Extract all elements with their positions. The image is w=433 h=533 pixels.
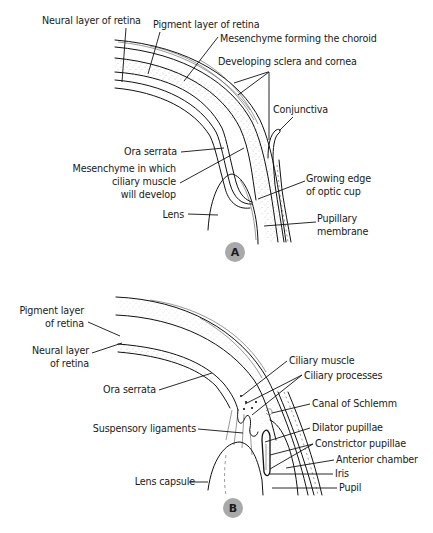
label-pigment-layer-of-retina-b: Pigment layerof retina: [19, 305, 84, 329]
label-line: will develop: [121, 189, 176, 200]
label-line: Pigment layer of retina: [153, 19, 259, 30]
panel-b-badge: B: [223, 498, 243, 518]
label-line: Anterior chamber: [336, 454, 418, 465]
label-line: Ora serrata: [124, 146, 177, 157]
label-line: Suspensory ligaments: [93, 423, 196, 434]
leader-neural-layer-of-retina-b: [92, 343, 122, 353]
label-line: Developing sclera and cornea: [218, 56, 357, 67]
badge-label-a: A: [231, 246, 240, 259]
label-pigment-layer-of-retina: Pigment layer of retina: [153, 19, 259, 30]
label-ciliary-muscle: Ciliary muscle: [289, 355, 355, 366]
label-line: Dilator pupillae: [312, 422, 383, 433]
label-line: Lens capsule: [135, 476, 196, 487]
label-neural-layer-of-retina-b: Neural layerof retina: [32, 345, 89, 369]
label-mesenchyme-forming-choroid: Mesenchyme forming the choroid: [220, 33, 377, 44]
leader-pigment-layer-of-retina-b: [88, 322, 120, 336]
label-canal-of-schlemm: Canal of Schlemm: [312, 398, 397, 409]
diagram-canvas: Neural layer of retinaPigment layer of r…: [0, 0, 433, 533]
label-line: Canal of Schlemm: [312, 398, 397, 409]
label-line: Ora serrata: [103, 384, 156, 395]
leader-lens: [188, 214, 218, 215]
lens-capsule-inner-b: [225, 455, 227, 495]
label-pupillary-membrane: Pupillarymembrane: [317, 213, 369, 237]
label-ora-serrata-a: Ora serrata: [124, 146, 177, 157]
label-growing-edge-optic-cup: Growing edgeof optic cup: [306, 173, 371, 197]
label-pupil: Pupil: [339, 482, 361, 493]
label-line: of retina: [50, 358, 89, 369]
panel-a-drawing: [115, 40, 291, 244]
label-line: Mesenchyme forming the choroid: [220, 33, 377, 44]
label-line: Pigment layer: [19, 305, 84, 316]
label-lens-capsule: Lens capsule: [135, 476, 196, 487]
label-line: Ciliary processes: [304, 370, 383, 381]
leader-conjunctiva: [279, 117, 293, 131]
label-line: Pupil: [339, 482, 361, 493]
label-line: Constrictor pupillae: [315, 438, 406, 449]
label-line: membrane: [317, 226, 369, 237]
eye-development-figure: Neural layer of retinaPigment layer of r…: [0, 0, 433, 533]
label-constrictor-pupillae: Constrictor pupillae: [315, 438, 406, 449]
labels: Neural layer of retinaPigment layer of r…: [19, 15, 418, 493]
label-line: Mesenchyme in which: [73, 163, 176, 174]
sclera-inner-line-b: [116, 315, 276, 440]
label-mesenchyme-ciliary-muscle: Mesenchyme in whichciliary musclewill de…: [73, 163, 177, 200]
lens-outline-b: [208, 442, 263, 495]
label-line: Growing edge: [306, 173, 371, 184]
label-lens: Lens: [162, 209, 184, 220]
label-line: of retina: [45, 318, 84, 329]
label-line: Iris: [335, 468, 349, 479]
panel-a-badge: A: [225, 242, 245, 262]
label-line: of optic cup: [306, 186, 361, 197]
label-line: Neural layer of retina: [42, 15, 141, 26]
label-dilator-pupillae: Dilator pupillae: [312, 422, 383, 433]
label-suspensory-ligaments: Suspensory ligaments: [93, 423, 196, 434]
label-iris: Iris: [335, 468, 349, 479]
lens-outline-a: [208, 174, 258, 244]
retina-band-b: [118, 344, 220, 388]
leader-ora-serrata-b: [159, 373, 212, 390]
label-line: Neural layer: [32, 345, 89, 356]
label-line: Ciliary muscle: [289, 355, 355, 366]
label-ciliary-processes: Ciliary processes: [304, 370, 383, 381]
label-line: Lens: [162, 209, 184, 220]
label-conjunctiva: Conjunctiva: [273, 104, 328, 115]
panel-b-drawing: [116, 297, 322, 495]
label-ora-serrata-b: Ora serrata: [103, 384, 156, 395]
badge-label-b: B: [229, 502, 237, 515]
leader-ora-serrata-a: [181, 148, 224, 152]
label-line: Conjunctiva: [273, 104, 328, 115]
label-anterior-chamber: Anterior chamber: [336, 454, 418, 465]
label-neural-layer-of-retina: Neural layer of retina: [42, 15, 141, 26]
label-line: ciliary muscle: [112, 176, 176, 187]
label-line: Pupillary: [317, 213, 357, 224]
leader-suspensory-ligaments: [198, 429, 243, 433]
label-developing-sclera-and-cornea: Developing sclera and cornea: [218, 56, 357, 67]
